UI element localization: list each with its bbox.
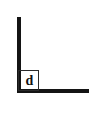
dimension-label-d: d — [20, 71, 39, 90]
diagram-canvas: d — [0, 0, 96, 115]
